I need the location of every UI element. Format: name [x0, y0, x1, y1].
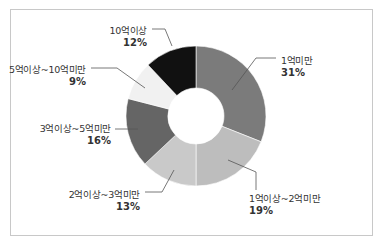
label-slice-5: 10억이상 12% [109, 25, 147, 49]
label-slice-4: 5억이상~10억미만 9% [9, 64, 86, 88]
label-slice-1: 1억이상~2억미만 19% [249, 193, 320, 217]
leader-line [152, 29, 172, 46]
slice-label: 2억이상~3억미만 [69, 189, 140, 201]
slice-percent: 31% [281, 67, 313, 79]
label-slice-0: 1억미만 31% [281, 55, 313, 79]
slice-label: 5억이상~10억미만 [9, 64, 86, 76]
label-slice-3: 3억이상~5억미만 16% [40, 123, 111, 147]
slice-percent: 13% [69, 201, 140, 213]
slice-label: 1억이상~2억미만 [249, 193, 320, 205]
slice-label: 3억이상~5억미만 [40, 123, 111, 135]
donut-slice [196, 46, 266, 142]
slice-percent: 19% [249, 205, 320, 217]
slice-label: 1억미만 [281, 55, 313, 67]
slice-percent: 16% [40, 135, 111, 147]
slice-percent: 12% [109, 37, 147, 49]
slice-percent: 9% [9, 76, 86, 88]
label-slice-2: 2억이상~3억미만 13% [69, 189, 140, 213]
slice-label: 10억이상 [109, 25, 147, 37]
